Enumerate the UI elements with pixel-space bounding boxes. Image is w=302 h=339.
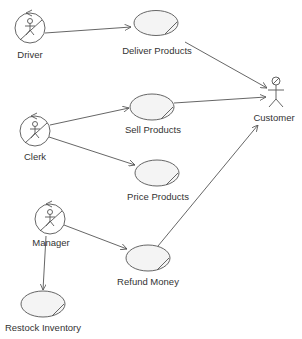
- use-case-price-products[interactable]: [135, 160, 179, 186]
- use-case-label-price-products: Price Products: [127, 191, 189, 202]
- association-refund-customer[interactable]: [158, 125, 258, 246]
- association-sell-customer[interactable]: [174, 97, 266, 103]
- actor-label-clerk: Clerk: [24, 151, 46, 162]
- use-case-restock-inventory[interactable]: [21, 291, 65, 317]
- actor-customer[interactable]: [268, 77, 284, 107]
- actor-clerk[interactable]: [20, 113, 50, 146]
- use-case-refund-money[interactable]: [126, 245, 170, 271]
- actor-label-manager: Manager: [32, 237, 70, 248]
- use-case-label-restock-inventory: Restock Inventory: [5, 322, 81, 333]
- association-clerk-sell[interactable]: [50, 108, 129, 125]
- actor-driver[interactable]: [15, 10, 45, 43]
- use-case-label-deliver-products: Deliver Products: [122, 45, 192, 56]
- association-clerk-price[interactable]: [49, 137, 135, 165]
- use-case-label-sell-products: Sell Products: [125, 124, 181, 135]
- actor-manager[interactable]: [35, 201, 65, 234]
- use-case-label-refund-money: Refund Money: [117, 276, 179, 287]
- association-deliver-customer[interactable]: [185, 42, 267, 88]
- association-manager-refund[interactable]: [64, 225, 127, 249]
- use-case-sell-products[interactable]: [130, 94, 174, 120]
- use-case-diagram: Driver Clerk Manager Customer De: [0, 0, 302, 339]
- association-driver-deliver[interactable]: [45, 27, 131, 33]
- actor-label-driver: Driver: [17, 49, 42, 60]
- use-case-deliver-products[interactable]: [134, 11, 178, 36]
- actor-label-customer: Customer: [253, 112, 294, 123]
